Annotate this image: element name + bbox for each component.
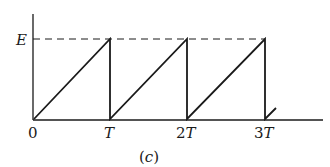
x-tick-t: T: [104, 124, 115, 142]
x-tick-2t: 2T: [176, 124, 197, 142]
x-tick-3t: 3T: [254, 124, 275, 142]
figure-caption: (c): [139, 148, 159, 166]
x-tick-0: 0: [28, 124, 38, 142]
y-tick-e: E: [15, 31, 27, 49]
sawtooth-chart: E 0 T 2T 3T (c): [0, 0, 330, 167]
sawtooth-waveform: [34, 39, 276, 119]
